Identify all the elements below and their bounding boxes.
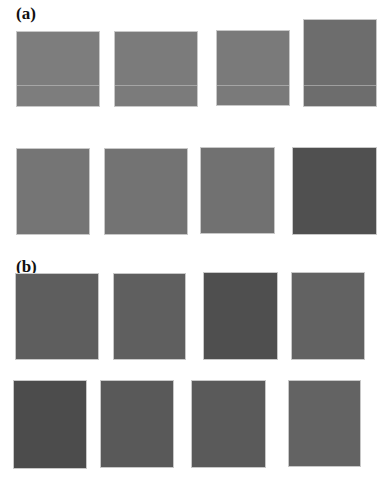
- panel-a-swatch-6: [104, 148, 188, 235]
- panel-a-swatch-7: [200, 147, 275, 234]
- panel-a-swatch-4: [303, 19, 377, 107]
- panel-b-swatch-1: [15, 273, 99, 360]
- panel-a-swatch-1: [16, 31, 100, 107]
- panel-a-swatch-3: [216, 30, 290, 106]
- panel-b-swatch-8: [288, 380, 361, 467]
- scan-line: [304, 85, 376, 86]
- panel-a-swatch-5: [16, 148, 90, 235]
- panel-b-swatch-6: [100, 380, 174, 468]
- scan-line: [115, 85, 197, 86]
- panel-a-label: (a): [16, 5, 36, 22]
- scan-line: [217, 85, 289, 86]
- panel-b-swatch-4: [291, 272, 365, 360]
- panel-b-swatch-2: [113, 273, 186, 360]
- panel-b-swatch-5: [13, 380, 87, 469]
- panel-a-swatch-2: [114, 31, 198, 107]
- panel-a-swatch-8: [292, 147, 377, 235]
- scan-line: [17, 85, 99, 86]
- panel-b-swatch-3: [203, 272, 278, 360]
- panel-b-swatch-7: [191, 380, 266, 468]
